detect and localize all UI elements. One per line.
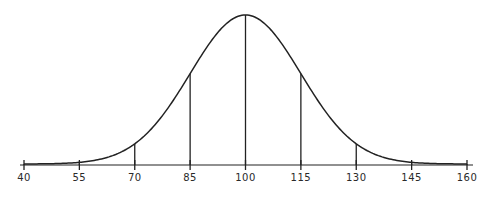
x-tick-label: 70 xyxy=(128,172,142,183)
x-axis-tick-labels: 40557085100115130145160 xyxy=(17,172,477,183)
x-tick-label: 85 xyxy=(183,172,197,183)
x-tick-label: 100 xyxy=(235,172,256,183)
x-tick-label: 145 xyxy=(401,172,422,183)
x-tick-label: 40 xyxy=(17,172,31,183)
x-tick-label: 130 xyxy=(346,172,367,183)
x-tick-label: 115 xyxy=(291,172,312,183)
sd-vertical-lines xyxy=(24,15,467,165)
bell-curve-chart: 40557085100115130145160 xyxy=(0,0,484,205)
chart-canvas: 40557085100115130145160 xyxy=(0,0,484,205)
x-tick-label: 55 xyxy=(73,172,87,183)
x-tick-label: 160 xyxy=(457,172,478,183)
